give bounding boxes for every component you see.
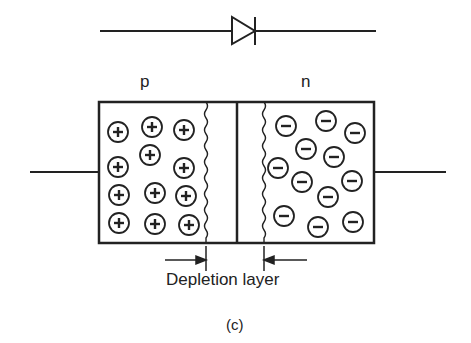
depletion-boundary-right <box>263 102 266 243</box>
positive-ion-icon <box>179 215 199 235</box>
diode-symbol <box>100 17 376 45</box>
positive-ion-icon <box>174 158 194 178</box>
n-region-label: n <box>301 72 310 92</box>
negative-ion-icon <box>345 123 365 143</box>
negative-ion-icon <box>342 171 362 191</box>
pn-junction-diagram <box>0 0 471 343</box>
depletion-dimension <box>165 246 307 271</box>
p-region-label: p <box>140 72 149 92</box>
negative-ion-icon <box>274 206 294 226</box>
negative-ion-icon <box>308 217 328 237</box>
n-region-charges <box>268 111 365 237</box>
positive-ion-icon <box>176 186 196 206</box>
negative-ion-icon <box>316 111 336 131</box>
arrow-right-icon <box>196 256 206 264</box>
positive-ion-icon <box>109 185 129 205</box>
figure-caption: (c) <box>226 316 244 333</box>
negative-ion-icon <box>292 172 312 192</box>
positive-ion-icon <box>145 214 165 234</box>
depletion-layer-label: Depletion layer <box>166 270 279 290</box>
negative-ion-icon <box>324 147 344 167</box>
positive-ion-icon <box>145 183 165 203</box>
negative-ion-icon <box>343 212 363 232</box>
positive-ion-icon <box>108 122 128 142</box>
arrow-left-icon <box>264 256 274 264</box>
positive-ion-icon <box>174 120 194 140</box>
negative-ion-icon <box>268 158 288 178</box>
negative-ion-icon <box>318 187 338 207</box>
positive-ion-icon <box>142 117 162 137</box>
negative-ion-icon <box>296 139 316 159</box>
depletion-boundary-left <box>205 102 208 243</box>
p-region-charges <box>108 117 199 235</box>
positive-ion-icon <box>108 157 128 177</box>
positive-ion-icon <box>140 145 160 165</box>
negative-ion-icon <box>276 116 296 136</box>
positive-ion-icon <box>109 213 129 233</box>
